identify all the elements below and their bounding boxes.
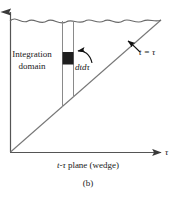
plane-caption-rest: plane (wedge) <box>66 160 119 170</box>
differential-element-label: dtdτ <box>75 62 90 73</box>
diagonal-line-t-equals-tau <box>11 20 162 152</box>
wavy-top-boundary <box>10 19 161 23</box>
integration-domain-label: Integration domain <box>4 49 60 72</box>
plane-caption: t-τ plane (wedge) <box>0 160 176 171</box>
differential-area-block <box>63 52 74 65</box>
subfigure-caption: (b) <box>0 178 176 189</box>
t-equals-tau-label: t = τ <box>139 47 155 58</box>
tau-axis-label: τ <box>165 147 168 158</box>
figure-container: Integration domain dtdτ t = τ τ t-τ plan… <box>0 0 176 197</box>
